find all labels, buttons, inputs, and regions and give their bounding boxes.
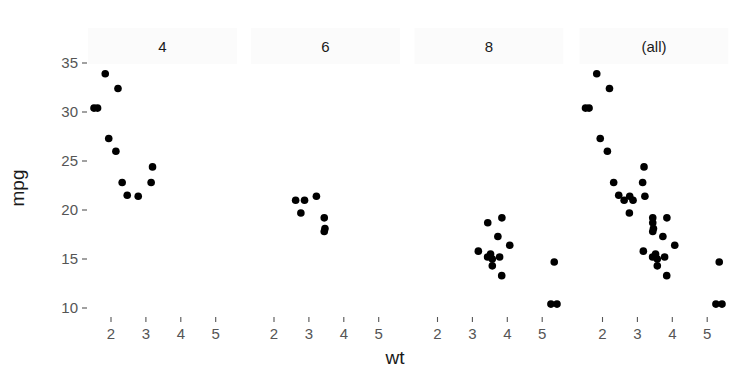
data-point <box>498 214 506 222</box>
data-point <box>639 179 647 187</box>
x-axis-title: wt <box>385 347 406 368</box>
y-tick-label: 35 <box>61 54 78 71</box>
faceted-scatter-chart: 468(all) 101520253035 2345234523452345 m… <box>0 0 753 383</box>
data-point <box>475 247 483 255</box>
data-point <box>610 179 618 187</box>
x-tick-label: 4 <box>668 325 676 342</box>
data-point <box>659 233 667 241</box>
data-point <box>297 209 305 217</box>
y-tick-label: 25 <box>61 152 78 169</box>
data-point <box>496 253 504 261</box>
data-point <box>313 192 321 200</box>
x-tick-label: 2 <box>270 325 278 342</box>
x-tick-label: 3 <box>305 325 313 342</box>
data-point <box>498 272 506 280</box>
data-point <box>593 70 601 78</box>
data-point <box>620 196 628 204</box>
data-point <box>604 147 612 155</box>
x-tick-label: 3 <box>468 325 476 342</box>
x-tick-label: 2 <box>107 325 115 342</box>
y-axis: 101520253035 <box>61 54 87 316</box>
data-point <box>715 258 723 266</box>
data-point <box>653 262 661 270</box>
x-tick-label: 3 <box>142 325 150 342</box>
data-point <box>320 228 328 236</box>
data-point <box>90 104 98 112</box>
facet-strip-label: 4 <box>158 38 166 55</box>
data-point <box>649 228 657 236</box>
data-point <box>114 85 122 93</box>
data-point <box>292 196 300 204</box>
data-point <box>653 255 661 263</box>
data-point <box>661 253 669 261</box>
x-tick-label: 5 <box>538 325 546 342</box>
data-point <box>134 192 142 200</box>
data-point <box>147 179 155 187</box>
data-points <box>90 70 726 308</box>
data-point <box>550 258 558 266</box>
x-tick-label: 2 <box>433 325 441 342</box>
data-point <box>101 70 109 78</box>
data-point <box>718 300 726 308</box>
y-tick-label: 20 <box>61 201 78 218</box>
y-tick-label: 30 <box>61 103 78 120</box>
x-tick-label: 3 <box>633 325 641 342</box>
data-point <box>494 233 502 241</box>
data-point <box>488 262 496 270</box>
data-point <box>553 300 561 308</box>
data-point <box>123 192 131 200</box>
data-point <box>320 214 328 222</box>
x-tick-label: 4 <box>340 325 348 342</box>
x-tick-label: 4 <box>503 325 511 342</box>
facet-strip-label: 6 <box>321 38 329 55</box>
data-point <box>640 163 648 171</box>
data-point <box>149 163 157 171</box>
facet-strip-label: 8 <box>485 38 493 55</box>
x-axes: 2345234523452345 <box>107 317 712 342</box>
y-tick-label: 10 <box>61 299 78 316</box>
data-point <box>488 255 496 263</box>
y-tick-label: 15 <box>61 250 78 267</box>
data-point <box>484 219 492 227</box>
facet-strip-label: (all) <box>641 38 666 55</box>
x-tick-label: 5 <box>703 325 711 342</box>
data-point <box>606 85 614 93</box>
data-point <box>663 214 671 222</box>
data-point <box>105 135 113 143</box>
x-tick-label: 5 <box>375 325 383 342</box>
y-axis-title: mpg <box>7 170 28 207</box>
facet-strips: 468(all) <box>88 28 728 64</box>
data-point <box>649 219 657 227</box>
data-point <box>626 209 634 217</box>
x-tick-label: 5 <box>212 325 220 342</box>
data-point <box>596 135 604 143</box>
x-tick-label: 2 <box>598 325 606 342</box>
data-point <box>640 247 648 255</box>
data-point <box>118 179 126 187</box>
data-point <box>671 241 679 249</box>
data-point <box>112 147 120 155</box>
data-point <box>629 196 637 204</box>
data-point <box>301 196 309 204</box>
data-point <box>663 272 671 280</box>
data-point <box>641 192 649 200</box>
data-point <box>582 104 590 112</box>
data-point <box>506 241 514 249</box>
x-tick-label: 4 <box>177 325 185 342</box>
